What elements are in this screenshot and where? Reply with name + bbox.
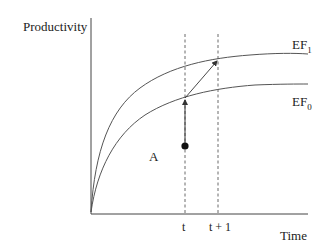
ef1-curve xyxy=(91,53,308,212)
point-dot xyxy=(181,142,188,149)
tick-label-t-plus-1: t + 1 xyxy=(209,220,231,234)
x-axis-label: Time xyxy=(280,228,307,243)
tick-label-t: t xyxy=(182,220,186,234)
ef0-subscript: 0 xyxy=(307,102,312,112)
ef1-label: EF1 xyxy=(292,37,312,55)
productivity-frontier-diagram: Productivity Time t t + 1 A EF1 EF0 xyxy=(0,0,326,252)
ef0-label: EF0 xyxy=(292,94,312,112)
y-axis-label: Productivity xyxy=(23,19,88,34)
ef1-subscript: 1 xyxy=(307,45,312,55)
point-label-a: A xyxy=(149,149,159,164)
